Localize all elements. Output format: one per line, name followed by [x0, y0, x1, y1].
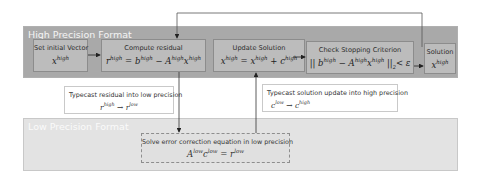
- step-update-solution: Update Solution xhigh = xhigh + chigh: [213, 39, 305, 72]
- step-equation: xhigh: [34, 55, 87, 66]
- step-equation: Alowclow = rlow: [142, 148, 289, 159]
- note-label: Typecast residual into low precision: [69, 91, 173, 99]
- step-equation: rhigh = bhigh − Ahighxhigh: [102, 55, 205, 66]
- step-label: Update Solution: [214, 44, 304, 52]
- step-equation: || bhigh − Ahighxhigh ||2< ε: [307, 57, 413, 70]
- step-label: Solve error correction equation in low p…: [142, 138, 289, 146]
- step-label: Solution: [425, 48, 455, 56]
- note-equation: rhigh → rlow: [65, 101, 173, 112]
- step-set-initial-vector: Set initial Vector xhigh: [33, 39, 88, 72]
- step-label: Set initial Vector: [34, 44, 87, 52]
- step-label: Compute residual: [102, 44, 205, 52]
- step-label: Check Stopping Criterion: [307, 46, 413, 54]
- step-solution: Solution xhigh: [424, 43, 456, 74]
- note-typecast-residual: Typecast residual into low precision rhi…: [64, 86, 174, 114]
- step-solve-error-correction: Solve error correction equation in low p…: [141, 133, 290, 163]
- low-precision-title: Low Precision Format: [28, 121, 129, 132]
- note-equation: clow → chigh: [271, 99, 397, 110]
- note-typecast-solution: Typecast solution update into high preci…: [262, 84, 398, 112]
- note-label: Typecast solution update into high preci…: [267, 89, 397, 97]
- step-check-stopping-criterion: Check Stopping Criterion || bhigh − Ahig…: [306, 41, 414, 74]
- step-equation: xhigh: [425, 59, 455, 70]
- step-equation: xhigh = xhigh + chigh: [214, 55, 304, 66]
- step-compute-residual: Compute residual rhigh = bhigh − Ahighxh…: [101, 39, 206, 72]
